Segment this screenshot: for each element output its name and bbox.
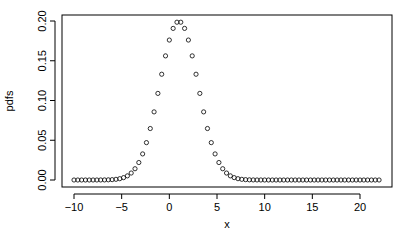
data-point bbox=[194, 72, 198, 76]
x-axis: −10−505101520 bbox=[65, 194, 366, 213]
data-point bbox=[129, 171, 133, 175]
data-point bbox=[198, 91, 202, 95]
x-tick-label: −10 bbox=[65, 201, 84, 213]
data-point bbox=[213, 152, 217, 156]
data-point bbox=[190, 54, 194, 58]
y-tick-label: 0.00 bbox=[36, 169, 48, 190]
y-tick-label: 0.05 bbox=[36, 130, 48, 151]
scatter-plot: −10−505101520 0.000.050.100.150.20 x pdf… bbox=[0, 0, 405, 238]
data-point bbox=[148, 126, 152, 130]
x-tick-label: 20 bbox=[354, 201, 366, 213]
data-points bbox=[72, 20, 381, 182]
data-point bbox=[171, 26, 175, 30]
data-point bbox=[133, 167, 137, 171]
y-axis: 0.000.050.100.150.20 bbox=[36, 10, 55, 190]
data-point bbox=[163, 54, 167, 58]
data-point bbox=[182, 26, 186, 30]
y-axis-label: pdfs bbox=[3, 90, 15, 111]
x-axis-label: x bbox=[224, 218, 230, 230]
plot-box bbox=[62, 15, 392, 187]
data-point bbox=[186, 38, 190, 42]
data-point bbox=[205, 126, 209, 130]
x-tick-label: 0 bbox=[166, 201, 172, 213]
data-point bbox=[144, 141, 148, 145]
x-tick-label: −5 bbox=[115, 201, 128, 213]
data-point bbox=[202, 110, 206, 114]
data-point bbox=[160, 72, 164, 76]
data-point bbox=[152, 110, 156, 114]
y-tick-label: 0.20 bbox=[36, 10, 48, 31]
data-point bbox=[224, 171, 228, 175]
y-tick-label: 0.15 bbox=[36, 50, 48, 71]
data-point bbox=[141, 152, 145, 156]
data-point bbox=[156, 91, 160, 95]
y-tick-label: 0.10 bbox=[36, 90, 48, 111]
data-point bbox=[221, 167, 225, 171]
data-point bbox=[137, 160, 141, 164]
data-point bbox=[167, 38, 171, 42]
x-tick-label: 10 bbox=[259, 201, 271, 213]
data-point bbox=[209, 141, 213, 145]
data-point bbox=[125, 174, 129, 178]
data-point bbox=[217, 160, 221, 164]
x-tick-label: 5 bbox=[214, 201, 220, 213]
x-tick-label: 15 bbox=[306, 201, 318, 213]
